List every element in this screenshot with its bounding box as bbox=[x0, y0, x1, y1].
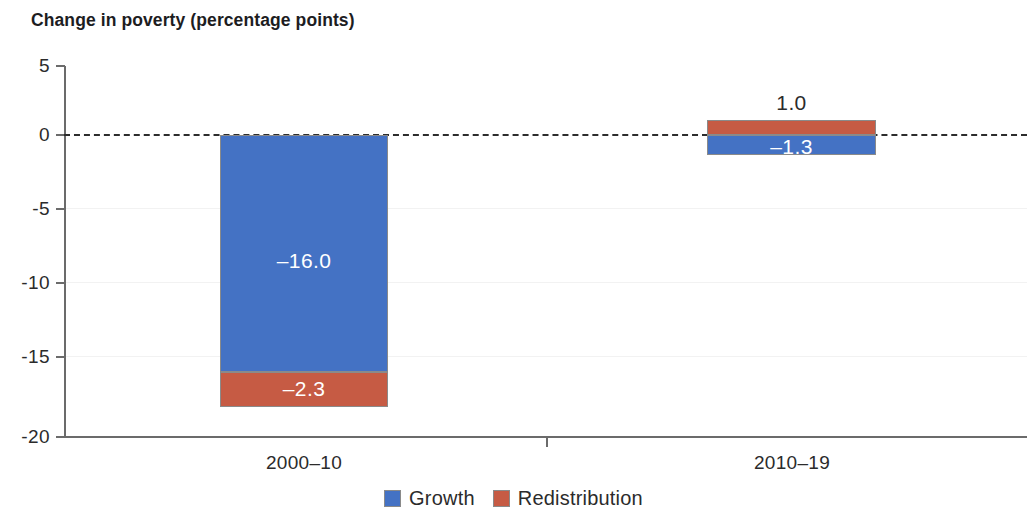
gridline-minus5 bbox=[66, 208, 1027, 209]
y-tick-label-0: 0 bbox=[2, 125, 50, 144]
legend-item-redistribution[interactable]: Redistribution bbox=[493, 487, 643, 510]
x-axis-label-2010-19: 2010–19 bbox=[692, 452, 892, 474]
y-tick-mark-m15 bbox=[56, 356, 65, 358]
legend-item-growth[interactable]: Growth bbox=[384, 487, 475, 510]
chart-container: Change in poverty (percentage points) 5 … bbox=[0, 0, 1027, 518]
y-tick-mark-m10 bbox=[56, 282, 65, 284]
gridline-minus10 bbox=[66, 282, 1027, 283]
zero-reference-line bbox=[64, 134, 1027, 136]
y-tick-label-minus5: -5 bbox=[2, 199, 50, 218]
y-tick-label-minus15: -15 bbox=[2, 347, 50, 366]
legend-label-redistribution: Redistribution bbox=[518, 487, 643, 510]
gridline-minus15 bbox=[66, 356, 1027, 357]
x-axis-label-2000-10: 2000–10 bbox=[204, 452, 404, 474]
chart-legend: Growth Redistribution bbox=[0, 487, 1027, 510]
bar-value-growth-2010-19: –1.3 bbox=[707, 136, 876, 157]
y-tick-label-5: 5 bbox=[2, 56, 50, 75]
legend-label-growth: Growth bbox=[409, 487, 475, 510]
plot-area: 5 0 -5 -10 -15 -20 –16.0 –2.3 1.0 –1.3 bbox=[0, 0, 1027, 518]
bar-value-redistribution-2000-10: –2.3 bbox=[220, 378, 388, 399]
y-tick-mark-m5 bbox=[56, 208, 65, 210]
bar-value-growth-2000-10: –16.0 bbox=[220, 250, 388, 271]
x-tick-mark-category-boundary bbox=[546, 437, 548, 447]
bar-segment-redistribution-2010-19[interactable] bbox=[707, 120, 876, 135]
y-tick-label-minus20: -20 bbox=[2, 427, 50, 446]
y-tick-label-minus10: -10 bbox=[2, 273, 50, 292]
legend-swatch-redistribution-icon bbox=[493, 490, 510, 507]
bar-value-redistribution-2010-19: 1.0 bbox=[707, 92, 876, 113]
y-tick-mark-5 bbox=[56, 65, 65, 67]
legend-swatch-growth-icon bbox=[384, 490, 401, 507]
y-axis-line bbox=[64, 66, 66, 437]
